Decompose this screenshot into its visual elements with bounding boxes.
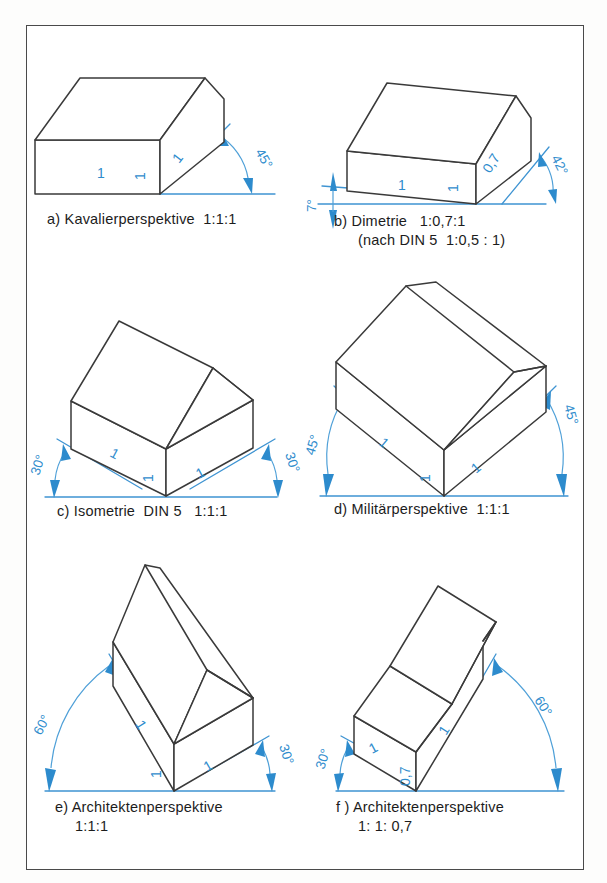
panel-b-dimetrie: 7° 42° 1 1 0,7 b) Dimetrie 1:0,7:1 (nach… [306, 54, 585, 259]
panel-d-drawing: 45° 45° 1 1 1 [306, 274, 585, 519]
dim-height-b: 1 [445, 184, 461, 192]
arc-arrow-left-bot-f [334, 773, 344, 792]
arc-arrow-bottom-b [548, 189, 557, 204]
caption-f-line1: f ) Architektenperspektive [336, 798, 504, 816]
angle-arc-right-d [546, 398, 563, 474]
arc-arrow-right-bot-e [266, 773, 276, 792]
angle-label-f-right: 60° [531, 694, 555, 719]
angle-label-b-42: 42° [548, 153, 571, 178]
panel-e-architektenperspektive: 60° 30° 1 1 1 e) Architektenperspektive [27, 546, 306, 846]
dim-height-e: 1 [148, 770, 164, 778]
arc-arrow-right-top-f [492, 658, 503, 676]
angle-label-c-left: 30° [28, 453, 49, 477]
angle-label-c-right: 30° [282, 450, 303, 474]
arc-arrow-up-b7 [330, 172, 337, 191]
figure-frame: 1 1 1 45° a) Kavalierperspektive 1:1:1 [26, 25, 584, 870]
caption-b-line1: b) Dimetrie 1:0,7:1 [334, 212, 466, 230]
arc-arrow-left-bot-d [323, 474, 334, 497]
arc-arrow-right-bot-f [551, 768, 562, 792]
panel-f-architektenperspektive: 30° 60° 1 0,7 1 f ) Architektenpersp [306, 546, 585, 846]
angle-label-f-left: 30° [313, 747, 334, 771]
angle-label-e-left: 60° [30, 712, 53, 737]
caption-d: d) Militärperspektive 1:1:1 [334, 500, 510, 518]
dim-width-a: 1 [97, 165, 105, 181]
caption-e-line2: 1:1:1 [75, 817, 108, 835]
dim-height-c: 1 [140, 474, 156, 482]
caption-e-line1: e) Architektenperspektive [55, 798, 223, 816]
angle-label-a-45: 45° [252, 146, 275, 171]
dim-height-d: 1 [417, 474, 433, 482]
caption-a: a) Kavalierperspektive 1:1:1 [47, 210, 237, 228]
arc-arrow-left-bot-e [45, 768, 56, 792]
dim-depth-f: 0,7 [397, 766, 413, 786]
arc-arrow-bottom-a [243, 178, 253, 194]
angle-label-d-left: 45° [302, 433, 322, 457]
angle-arc-right-f [498, 666, 556, 768]
arc-arrow-right-bot-c [273, 480, 283, 498]
arc-arrow-right-bot-d [556, 474, 567, 497]
figure-page: 1 1 1 45° a) Kavalierperspektive 1:1:1 [0, 0, 607, 883]
angle-label-e-right: 30° [276, 742, 297, 766]
caption-f-line2: 1: 1: 0,7 [358, 817, 412, 835]
panel-d-militaerperspektive: 45° 45° 1 1 1 d) Militärperspektive 1:1:… [306, 274, 585, 519]
caption-b-line2: (nach DIN 5 1:0,5 : 1) [358, 231, 505, 249]
dim-height-a: 1 [132, 172, 148, 180]
panel-c-drawing: 30° 30° 1 1 1 [27, 284, 306, 519]
angle-arc-left-e [51, 666, 109, 768]
angle-label-d-right: 45° [561, 403, 581, 427]
dim-width-b: 1 [398, 177, 406, 193]
caption-c: c) Isometrie DIN 5 1:1:1 [57, 502, 228, 520]
angle-label-b-7: 7° [304, 199, 319, 212]
panel-a-kavalierperspektive: 1 1 1 45° a) Kavalierperspektive 1:1:1 [27, 54, 306, 249]
panel-c-isometrie: 30° 30° 1 1 1 c) I [27, 284, 306, 519]
arc-arrow-left-bot-c [50, 480, 60, 498]
